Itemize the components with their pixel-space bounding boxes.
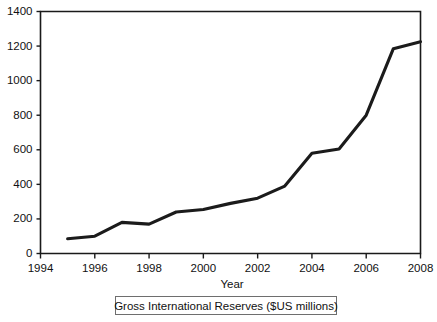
x-axis-tick-label: 1996 (82, 262, 108, 274)
x-axis-tick-label: 2004 (299, 262, 325, 274)
chart-figure: 0200400600800100012001400 19941996199820… (0, 0, 437, 322)
y-axis-tick-labels: 0200400600800100012001400 (7, 5, 33, 259)
x-axis-tick-label: 2002 (245, 262, 271, 274)
x-axis-tick-label: 1998 (136, 262, 162, 274)
y-axis-tick-label: 1200 (7, 40, 33, 52)
y-axis-tick-label: 600 (13, 143, 32, 155)
legend-label: Gross International Reserves ($US millio… (114, 300, 338, 312)
line-chart-plot: 0200400600800100012001400 19941996199820… (0, 0, 437, 322)
y-axis-tick-label: 1400 (7, 5, 33, 17)
x-axis-tick-label: 1994 (28, 262, 54, 274)
chart-legend: Gross International Reserves ($US millio… (115, 296, 337, 315)
data-series-group (68, 42, 421, 239)
y-axis-tick-label: 0 (26, 247, 32, 259)
x-axis-tick-label: 2008 (408, 262, 434, 274)
y-axis-tick-label: 800 (13, 109, 32, 121)
x-axis-tick-labels: 19941996199820002002200420062008 (28, 262, 434, 274)
series-line-gross-international-reserves (68, 42, 421, 239)
y-axis-tick-label: 1000 (7, 74, 33, 86)
x-axis-tick-label: 2006 (353, 262, 379, 274)
x-axis-title: Year (220, 278, 243, 290)
x-axis-tick-label: 2000 (191, 262, 217, 274)
y-axis-tick-label: 200 (13, 212, 32, 224)
plot-axes-frame (41, 12, 421, 254)
plot-frame (41, 12, 421, 254)
y-axis-tick-label: 400 (13, 178, 32, 190)
